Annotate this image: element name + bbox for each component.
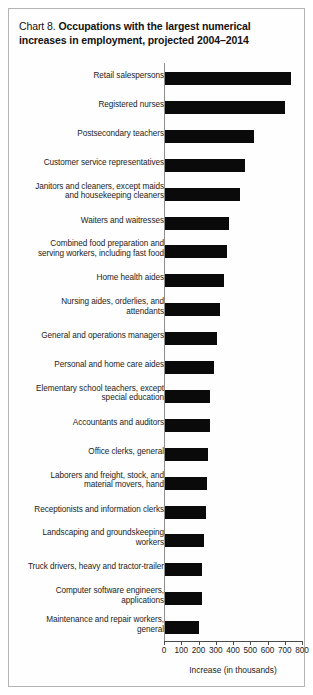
bar (164, 303, 220, 316)
chart-frame: Chart 8. Occupations with the largest nu… (8, 8, 305, 687)
chart-category-row: Laborers and freight, stock, and materia… (9, 468, 306, 494)
x-axis-title: Increase (in thousands) (164, 665, 302, 675)
chart-category-row: Postsecondary teachers (9, 121, 306, 147)
category-label: Customer service representatives (16, 158, 164, 168)
chart-title-prefix: Chart 8. (19, 20, 56, 32)
x-axis-tick (268, 641, 269, 645)
bar (164, 101, 285, 114)
category-label: General and operations managers (16, 331, 164, 341)
chart-category-row: Registered nurses (9, 92, 306, 118)
bar (164, 245, 227, 258)
chart-category-row: Personal and home care aides (9, 352, 306, 378)
category-label: Combined food preparation and serving wo… (16, 239, 164, 258)
x-axis-tick-label: 500 (243, 646, 257, 656)
category-label: Janitors and cleaners, except maids and … (16, 182, 164, 201)
category-label: Computer software engineers, application… (16, 586, 164, 605)
chart-category-row: Landscaping and groundskeeping workers (9, 525, 306, 551)
bar (164, 274, 224, 287)
bar (164, 332, 217, 345)
x-axis-tick (181, 641, 182, 645)
chart-category-row: Computer software engineers, application… (9, 583, 306, 609)
bar (164, 506, 206, 519)
bar (164, 188, 240, 201)
x-axis-tick-label: 300 (209, 646, 223, 656)
chart-category-row: Janitors and cleaners, except maids and … (9, 179, 306, 205)
bar (164, 621, 199, 634)
bar (164, 534, 204, 547)
category-label: Home health aides (16, 273, 164, 283)
chart-category-row: Elementary school teachers, except speci… (9, 381, 306, 407)
category-label: Registered nurses (16, 100, 164, 110)
x-axis-tick-label: 700 (278, 646, 292, 656)
category-label: Elementary school teachers, except speci… (16, 384, 164, 403)
chart-category-row: Maintenance and repair workers, general (9, 612, 306, 638)
category-label: Nursing aides, orderlies, and attendants (16, 297, 164, 316)
category-label: Receptionists and information clerks (16, 505, 164, 515)
category-label: Postsecondary teachers (16, 129, 164, 139)
x-axis-tick (302, 641, 303, 645)
bar (164, 419, 210, 432)
plot-area: Retail salespersonsRegistered nursesPost… (9, 63, 306, 643)
bar (164, 477, 207, 490)
chart-category-row: Combined food preparation and serving wo… (9, 236, 306, 262)
x-axis-tick-label: 100 (174, 646, 188, 656)
x-axis-tick (216, 641, 217, 645)
category-label: Retail salespersons (16, 71, 164, 81)
x-axis-tick (164, 641, 165, 645)
category-label: Office clerks, general (16, 447, 164, 457)
category-label: Personal and home care aides (16, 360, 164, 370)
chart-category-row: Accountants and auditors (9, 410, 306, 436)
x-axis-tick-label: 0 (162, 646, 167, 656)
y-axis-line (164, 63, 165, 641)
category-label: Truck drivers, heavy and tractor-trailer (16, 562, 164, 572)
chart-category-row: Waiters and waitresses (9, 208, 306, 234)
bar (164, 159, 245, 172)
category-label: Accountants and auditors (16, 418, 164, 428)
x-axis-tick-label: 200 (192, 646, 206, 656)
bar (164, 390, 210, 403)
chart-title: Chart 8. Occupations with the largest nu… (19, 19, 291, 47)
chart-category-row: Receptionists and information clerks (9, 497, 306, 523)
category-label: Maintenance and repair workers, general (16, 615, 164, 634)
bar (164, 563, 202, 576)
chart-category-row: Truck drivers, heavy and tractor-trailer (9, 554, 306, 580)
x-axis-tick-label: 800 (295, 646, 309, 656)
chart-category-row: Home health aides (9, 265, 306, 291)
bar (164, 217, 229, 230)
category-label: Landscaping and groundskeeping workers (16, 528, 164, 547)
bar (164, 592, 202, 605)
x-axis-tick (285, 641, 286, 645)
x-axis-tick (233, 641, 234, 645)
bar (164, 448, 208, 461)
chart-category-row: Nursing aides, orderlies, and attendants (9, 294, 306, 320)
x-axis-tick (250, 641, 251, 645)
chart-category-row: General and operations managers (9, 323, 306, 349)
chart-category-row: Retail salespersons (9, 63, 306, 89)
x-axis-tick (199, 641, 200, 645)
bar (164, 130, 254, 143)
bar (164, 72, 291, 85)
category-label: Waiters and waitresses (16, 216, 164, 226)
x-axis-tick-label: 400 (226, 646, 240, 656)
category-label: Laborers and freight, stock, and materia… (16, 471, 164, 490)
chart-category-row: Customer service representatives (9, 150, 306, 176)
chart-category-row: Office clerks, general (9, 439, 306, 465)
x-axis-tick-label: 600 (261, 646, 275, 656)
bar (164, 361, 214, 374)
